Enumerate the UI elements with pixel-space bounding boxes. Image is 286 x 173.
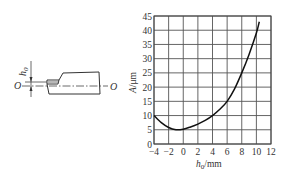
x-tick-label: −4 [149,147,159,157]
chart-grid [154,16,271,144]
x-tick-label: 4 [210,147,215,157]
arrow-up-icon [30,86,33,91]
x-tick-label: −2 [164,147,174,157]
y-tick-label: 25 [143,68,153,78]
axis-label-right: O [110,81,117,92]
y-tick-label: 30 [143,54,153,64]
tool-diagram: O O h0 [14,61,117,97]
chart: 051015202530354045 −4−2024681012 A/μm h0… [128,12,276,172]
y-tick-label: 40 [143,26,153,36]
y-tick-label: 45 [143,12,153,22]
y-tick-label: 35 [143,40,153,50]
axis-label-left: O [14,80,21,91]
x-tick-labels: −4−2024681012 [149,147,276,157]
x-tick-label: 10 [252,147,262,157]
y-tick-label: 10 [143,111,153,121]
x-tick-label: 6 [225,147,230,157]
y-tick-labels: 051015202530354045 [143,12,153,150]
y-axis-label: A/μm [128,71,138,94]
data-curve [154,22,259,130]
dimension-label: h0 [17,67,30,76]
arrow-down-icon [30,77,33,82]
x-axis-label: h0/mm [196,159,222,171]
figure: O O h0 051015202530354045 −4−2024681012 … [0,0,286,173]
tool-body [47,72,100,94]
x-tick-label: 2 [196,147,201,157]
y-tick-label: 15 [143,97,153,107]
x-tick-label: 8 [239,147,244,157]
y-tick-label: 5 [147,125,152,135]
x-tick-label: 0 [181,147,186,157]
x-tick-label: 12 [266,147,276,157]
y-tick-label: 20 [143,83,153,93]
figure-canvas: O O h0 051015202530354045 −4−2024681012 … [0,0,286,173]
